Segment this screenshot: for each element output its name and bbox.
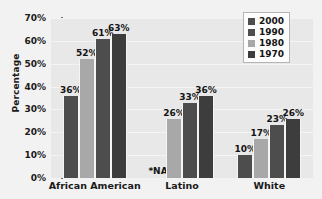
x-axis-tick-label: Latino [165, 180, 199, 191]
bar-value-label: 36% [195, 85, 217, 95]
y-axis-tick-label: 0% [14, 173, 46, 183]
legend-label: 1990 [259, 27, 284, 37]
legend-swatch-icon [248, 51, 255, 58]
bar[interactable] [95, 39, 111, 178]
y-axis-tick-label: 40% [14, 82, 46, 92]
bar-slot[interactable]: 36% [63, 18, 79, 178]
y-axis-tick-label: 20% [14, 127, 46, 137]
y-axis-tick-labels: 0%10%20%30%40%50%60%70% [14, 18, 46, 178]
legend-item[interactable]: 1990 [248, 27, 284, 37]
legend-label: 1980 [259, 38, 284, 48]
bar[interactable] [111, 34, 127, 178]
legend-swatch-icon [248, 40, 255, 47]
bar[interactable] [237, 155, 253, 178]
bar-slot[interactable]: 63% [111, 18, 127, 178]
bar-slot[interactable]: 52% [79, 18, 95, 178]
bar[interactable] [182, 103, 198, 178]
bar[interactable] [253, 139, 269, 178]
bar[interactable] [79, 59, 95, 178]
bar-group: 36%52%61%63% [63, 18, 127, 178]
bar[interactable] [63, 96, 79, 178]
bar[interactable] [269, 125, 285, 178]
x-axis-tick-label: White [254, 180, 285, 191]
legend-item[interactable]: 1970 [248, 49, 284, 59]
legend-item[interactable]: 2000 [248, 16, 284, 26]
legend-swatch-icon [248, 18, 255, 25]
bar-group: *NA26%33%36% [150, 18, 214, 178]
legend-swatch-icon [248, 29, 255, 36]
bar-slot[interactable]: 36% [198, 18, 214, 178]
bar-slot[interactable]: 61% [95, 18, 111, 178]
bar-value-label: 26% [283, 108, 305, 118]
bar[interactable] [166, 119, 182, 178]
bar[interactable] [198, 96, 214, 178]
bar-chart-figure: Percentage 0%10%20%30%40%50%60%70% 36%52… [0, 0, 322, 199]
chart-legend: 2000199019801970 [243, 12, 290, 63]
bar[interactable] [285, 119, 301, 178]
y-axis-tick-label: 10% [14, 150, 46, 160]
legend-label: 1970 [259, 49, 284, 59]
bar-slot[interactable]: *NA [150, 18, 166, 178]
y-axis-tick-label: 70% [14, 13, 46, 23]
legend-label: 2000 [259, 16, 284, 26]
bar-value-label: 63% [108, 23, 130, 33]
x-axis-category-labels: African AmericanLatinoWhite [51, 180, 313, 196]
bar-na-label: *NA [148, 166, 167, 176]
y-axis-tick-label: 60% [14, 36, 46, 46]
y-axis-tick-label: 30% [14, 104, 46, 114]
y-axis-tick-label: 50% [14, 59, 46, 69]
legend-item[interactable]: 1980 [248, 38, 284, 48]
bar-slot[interactable]: 33% [182, 18, 198, 178]
x-axis-tick-label: African American [49, 180, 141, 191]
